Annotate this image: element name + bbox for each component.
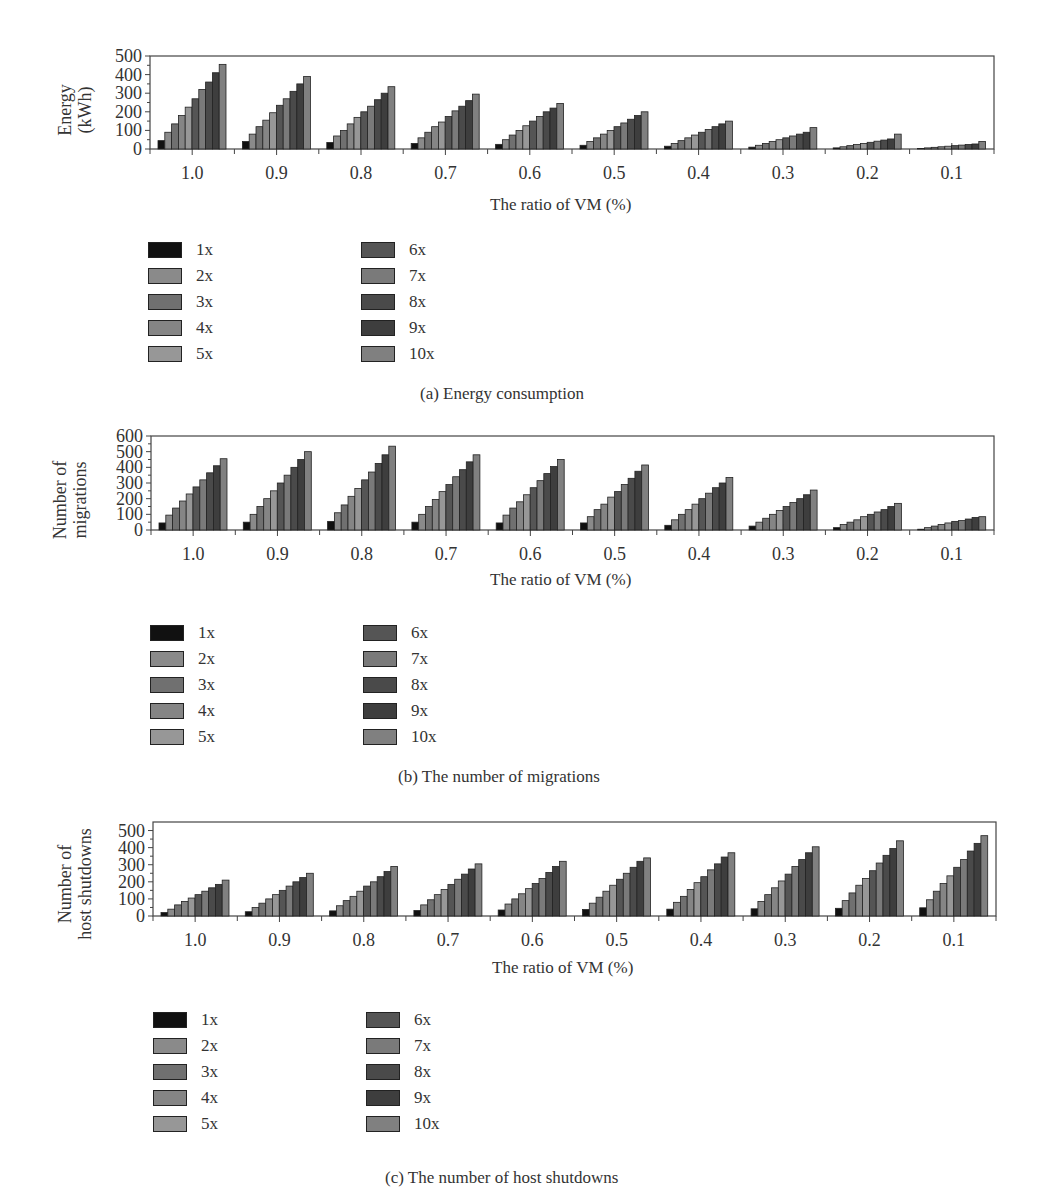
legend-item-1x: 1x: [150, 623, 215, 643]
legend-item-8x: 8x: [366, 1062, 431, 1082]
legend-label: 5x: [201, 1114, 218, 1134]
bar-9x: [213, 466, 220, 530]
bar-10x: [304, 76, 311, 149]
bar-7x: [790, 136, 797, 149]
bar-2x: [166, 515, 173, 530]
x-tick-label: 0.5: [603, 544, 626, 564]
bar-9x: [300, 878, 307, 916]
legend-label: 9x: [411, 701, 428, 721]
x-tick-label: 0.2: [856, 544, 879, 564]
bar-5x: [273, 895, 280, 916]
legend-label: 6x: [409, 240, 426, 260]
bar-5x: [778, 881, 785, 916]
bar-9x: [298, 460, 305, 531]
bar-8x: [714, 864, 721, 916]
bar-1x: [245, 912, 252, 916]
bar-2x: [842, 901, 849, 916]
bar-5x: [186, 494, 193, 530]
bar-1x: [158, 141, 165, 149]
bar-5x: [188, 898, 195, 916]
panel-energy: 01002003004005001.00.90.80.70.60.50.40.3…: [0, 0, 1037, 420]
legend-label: 5x: [196, 344, 213, 364]
y-tick-label: 100: [115, 120, 142, 140]
legend-label: 9x: [414, 1088, 431, 1108]
bar-6x: [698, 132, 705, 149]
x-tick-label: 1.0: [184, 930, 207, 950]
bar-4x: [685, 138, 692, 149]
legend-swatch: [366, 1012, 400, 1028]
bar-10x: [557, 103, 564, 149]
bar-8x: [377, 877, 384, 916]
x-axis-label-energy: The ratio of VM (%): [490, 195, 631, 215]
bar-3x: [594, 510, 601, 530]
y-axis-label-migrations: Number of migrations: [50, 440, 90, 560]
bar-9x: [972, 144, 979, 149]
bar-4x: [266, 899, 273, 916]
bar-4x: [517, 502, 524, 530]
bar-7x: [876, 863, 883, 916]
bar-4x: [263, 120, 270, 149]
bar-2x: [249, 134, 256, 149]
bar-3x: [510, 508, 517, 530]
bar-9x: [888, 507, 895, 531]
legend-item-2x: 2x: [153, 1036, 218, 1056]
bar-5x: [947, 876, 954, 916]
bar-1x: [496, 523, 503, 530]
bar-7x: [200, 480, 207, 530]
bar-2x: [165, 132, 172, 149]
legend-label: 4x: [198, 701, 215, 721]
legend-label: 1x: [201, 1010, 218, 1030]
legend-item-2x: 2x: [150, 649, 215, 669]
bar-10x: [557, 460, 564, 531]
y-tick-label: 500: [118, 821, 145, 841]
bar-1x: [412, 522, 419, 530]
bar-6x: [446, 485, 453, 530]
legend-label: 8x: [411, 675, 428, 695]
bar-3x: [933, 891, 940, 916]
legend-label: 3x: [196, 292, 213, 312]
legend-item-7x: 7x: [361, 266, 426, 286]
x-tick-label: 0.1: [943, 930, 966, 950]
bar-3x: [509, 135, 516, 149]
legend-item-4x: 4x: [150, 701, 215, 721]
legend-item-9x: 9x: [366, 1088, 431, 1108]
legend-item-4x: 4x: [148, 318, 213, 338]
bar-7x: [284, 475, 291, 530]
legend-item-6x: 6x: [361, 240, 426, 260]
bar-8x: [462, 874, 469, 916]
bar-8x: [546, 872, 553, 916]
x-tick-label: 0.3: [772, 163, 795, 183]
bar-9x: [466, 462, 473, 530]
legend-swatch: [361, 346, 395, 362]
bar-2x: [419, 514, 426, 530]
bar-9x: [466, 101, 473, 149]
legend-item-1x: 1x: [148, 240, 213, 260]
legend-item-8x: 8x: [361, 292, 426, 312]
bar-3x: [931, 147, 938, 149]
x-tick-label: 0.9: [265, 163, 288, 183]
x-tick-label: 0.6: [519, 163, 542, 183]
bar-7x: [283, 99, 290, 149]
legend-label: 2x: [198, 649, 215, 669]
bar-8x: [883, 855, 890, 916]
legend-label: 2x: [196, 266, 213, 286]
legend-swatch: [153, 1012, 187, 1028]
bar-7x: [368, 106, 375, 149]
bar-8x: [967, 851, 974, 916]
bar-6x: [195, 895, 202, 916]
bar-8x: [544, 474, 551, 530]
x-tick-label: 1.0: [181, 163, 204, 183]
bar-3x: [256, 127, 263, 149]
legend-label: 7x: [409, 266, 426, 286]
bar-10x: [472, 94, 479, 149]
legend-swatch: [361, 320, 395, 336]
bar-9x: [806, 853, 813, 916]
bar-2x: [502, 140, 509, 149]
bar-7x: [286, 886, 293, 916]
bar-2x: [840, 525, 847, 530]
bar-6x: [530, 121, 537, 149]
bar-1x: [330, 911, 337, 916]
bar-5x: [439, 492, 446, 530]
bar-7x: [621, 123, 628, 149]
bar-7x: [623, 873, 630, 916]
